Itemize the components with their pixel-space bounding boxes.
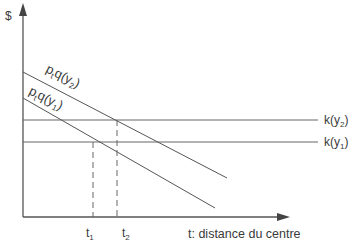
- bid-rent-y1-line: [23, 98, 215, 208]
- x-axis-label: t: distance du centre: [188, 228, 301, 241]
- k-y2-label: k(y2): [324, 114, 348, 129]
- y-axis-label: $: [5, 10, 12, 22]
- t2-label: t2: [122, 227, 130, 242]
- x-axis-arrow-icon: [277, 213, 290, 221]
- k-y1-label: k(y1): [324, 136, 348, 151]
- diagram-canvas: [0, 0, 360, 246]
- t1-label: t1: [86, 227, 94, 242]
- y-axis-arrow-icon: [19, 3, 27, 16]
- bid-rent-y2-line: [23, 72, 227, 178]
